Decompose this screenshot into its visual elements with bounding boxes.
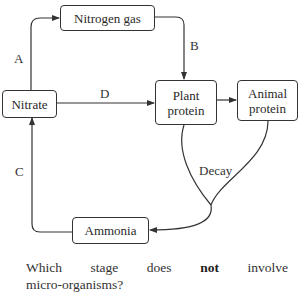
edge-label-c: C (15, 164, 24, 180)
nitrogen-cycle-diagram: Nitrogen gas Nitrate Plant protein Anima… (0, 0, 299, 250)
node-plant-protein-line1: Plant (173, 88, 200, 103)
question-word-1: Which (26, 259, 62, 276)
question-word-5: involve (247, 259, 288, 276)
question-text: Which stage does not involve micro-organ… (26, 259, 288, 293)
edge-label-b: B (190, 38, 199, 54)
question-word-2: stage (91, 259, 119, 276)
node-nitrate-label: Nitrate (11, 97, 47, 112)
arrow-decay-to-ammonia (150, 205, 211, 230)
question-line-1: Which stage does not involve (26, 259, 288, 276)
node-plant-protein: Plant protein (155, 80, 217, 125)
connector-lines (0, 0, 299, 250)
question-line-2: micro-organisms? (26, 276, 288, 293)
edge-label-a: A (14, 51, 23, 67)
node-ammonia-label: Ammonia (85, 223, 137, 238)
arrow-b (155, 17, 184, 79)
edge-label-decay: Decay (199, 163, 232, 179)
node-nitrogen-gas: Nitrogen gas (60, 5, 155, 31)
node-animal-protein: Animal protein (237, 80, 298, 121)
node-ammonia: Ammonia (72, 217, 149, 244)
node-animal-protein-line2: protein (249, 101, 286, 116)
edge-label-d: D (100, 86, 109, 102)
node-plant-protein-line2: protein (168, 103, 205, 118)
arrow-c (32, 118, 72, 232)
question-word-3: does (147, 259, 172, 276)
node-nitrate: Nitrate (2, 90, 57, 118)
node-animal-protein-line1: Animal (248, 86, 287, 101)
arrow-a (31, 18, 59, 90)
node-nitrogen-gas-label: Nitrogen gas (74, 11, 141, 26)
question-emphasis-word: not (200, 259, 219, 276)
